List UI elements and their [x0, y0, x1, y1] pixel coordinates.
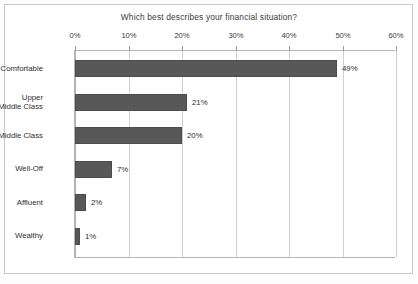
x-gridline	[182, 51, 183, 257]
bar	[75, 127, 182, 144]
bar	[75, 161, 112, 178]
x-gridline	[289, 51, 290, 257]
bar-value-label: 7%	[117, 165, 128, 174]
x-tick-label: 30%	[228, 31, 243, 40]
category-label: Wealthy	[0, 231, 43, 241]
x-tick-label: 50%	[335, 31, 350, 40]
x-tick-mark	[129, 46, 130, 51]
x-gridline	[343, 51, 344, 257]
x-gridline	[129, 51, 130, 257]
bar-row: 2%	[75, 194, 102, 211]
x-tick-label: 60%	[388, 31, 403, 40]
category-label: Well-Off	[0, 164, 43, 174]
bar-row: 1%	[75, 228, 96, 245]
bar	[75, 228, 80, 245]
bar-value-label: 49%	[342, 64, 358, 73]
bar-row: 21%	[75, 94, 208, 111]
category-label: Comfortable	[0, 64, 43, 74]
x-tick-label: 10%	[121, 31, 136, 40]
bar-value-label: 1%	[85, 232, 96, 241]
category-label: Upper Middle Class	[0, 93, 43, 112]
x-tick-mark	[343, 46, 344, 51]
bar-value-label: 21%	[192, 98, 208, 107]
category-label: Affluent	[0, 198, 43, 208]
x-tick-mark	[396, 46, 397, 51]
x-tick-mark	[182, 46, 183, 51]
bar-row: 49%	[75, 60, 358, 77]
bar-row: 20%	[75, 127, 203, 144]
category-label: Middle Class	[0, 131, 43, 141]
x-tick-mark	[289, 46, 290, 51]
chart-figure: Which best describes your financial situ…	[0, 0, 418, 284]
bar	[75, 194, 86, 211]
x-gridline	[75, 51, 76, 257]
bar	[75, 60, 337, 77]
x-tick-label: 20%	[174, 31, 189, 40]
bar-value-label: 20%	[187, 131, 203, 140]
bar-value-label: 2%	[91, 198, 102, 207]
bar-row: 7%	[75, 161, 128, 178]
x-tick-mark	[236, 46, 237, 51]
x-gridline	[236, 51, 237, 257]
x-tick-label: 0%	[70, 31, 81, 40]
x-gridline	[396, 51, 397, 257]
chart-title: Which best describes your financial situ…	[0, 12, 418, 22]
plot-area: 0%10%20%30%40%50%60%49%Comfortable21%Upp…	[74, 50, 395, 258]
x-tick-label: 40%	[281, 31, 296, 40]
bar	[75, 94, 187, 111]
x-tick-mark	[75, 46, 76, 51]
